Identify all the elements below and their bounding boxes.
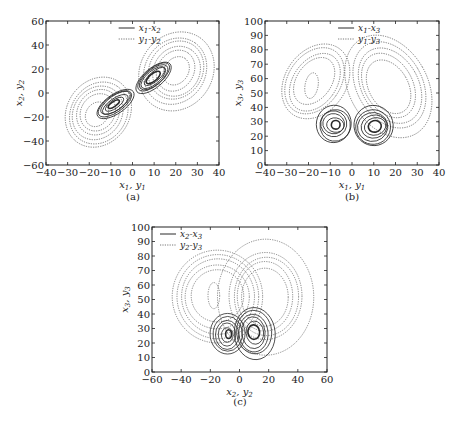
x-tick-label: 20 <box>389 167 402 178</box>
series-solid-orbit <box>131 57 176 100</box>
y-tick-label: 60 <box>137 280 150 291</box>
plot-frame <box>265 21 439 165</box>
y-tick-label: 0 <box>144 367 150 378</box>
y-tick-label: 60 <box>250 73 263 84</box>
chart-panel-a: −40−30−20−10010203040−60−40−200204060x1,… <box>0 0 230 205</box>
x-tick-label: −20 <box>200 374 221 385</box>
y-tick-label: 40 <box>31 40 44 51</box>
y-tick-label: 80 <box>137 251 150 262</box>
x-tick-label: 30 <box>191 167 204 178</box>
series-dotted-orbit <box>268 31 364 132</box>
x-tick-label: 0 <box>349 167 355 178</box>
x-tick-label: 30 <box>411 167 424 178</box>
y-tick-label: 40 <box>137 309 150 320</box>
plot-area-b: −40−30−20−100102030400102030405060708090… <box>232 16 450 193</box>
x-tick-label: 10 <box>148 167 161 178</box>
y-axis-label: x3, y3 <box>232 79 245 106</box>
y-axis-label: x3, y3 <box>119 286 132 313</box>
series-dotted-orbit <box>279 44 351 121</box>
y-tick-label: 80 <box>250 44 263 55</box>
x-tick-label: 60 <box>321 374 334 385</box>
plot-area-a: −40−30−20−10010203040−60−40−200204060x1,… <box>13 16 230 193</box>
y-tick-label: 50 <box>250 88 263 99</box>
x-tick-label: −40 <box>171 374 192 385</box>
series-dotted-orbit <box>285 50 343 112</box>
y-tick-label: 10 <box>137 352 150 363</box>
x-tick-label: −20 <box>298 167 319 178</box>
data-curves <box>172 239 314 361</box>
x-tick-label: 40 <box>291 374 304 385</box>
y-tick-label: 0 <box>257 160 263 171</box>
series-solid-orbit <box>325 116 345 133</box>
y-tick-label: 60 <box>31 16 44 27</box>
legend: x2-x3y2-y3 <box>160 229 203 252</box>
x-tick-label: 40 <box>213 167 226 178</box>
x-tick-label: −10 <box>320 167 341 178</box>
chart-panel-c: −60−40−2002040600102030405060708090100x2… <box>110 205 350 423</box>
y-tick-label: 40 <box>250 102 263 113</box>
series-dotted-orbit <box>217 239 313 355</box>
y-tick-label: 100 <box>131 222 150 233</box>
y-tick-label: 30 <box>250 116 263 127</box>
legend-entry: y1-y3 <box>357 34 381 46</box>
series-solid-orbit <box>359 112 390 141</box>
legend: x1-x2y1-y2 <box>119 23 162 46</box>
series-dotted-orbit <box>303 72 320 100</box>
y-tick-label: 90 <box>137 236 150 247</box>
y-tick-label: −20 <box>23 112 44 123</box>
y-tick-label: 20 <box>31 64 44 75</box>
y-tick-label: 100 <box>244 16 263 27</box>
x-tick-label: 0 <box>236 374 242 385</box>
series-dotted-orbit <box>327 19 450 153</box>
series-solid-orbit <box>313 102 354 145</box>
x-tick-label: 20 <box>262 374 275 385</box>
y-tick-label: −40 <box>23 136 44 147</box>
series-dotted-orbit <box>345 37 434 135</box>
series-dotted-orbit <box>58 71 140 156</box>
x-tick-label: −30 <box>57 167 78 178</box>
legend: x1-x3y1-y3 <box>338 23 381 46</box>
legend-entry: y1-y2 <box>138 34 162 46</box>
y-tick-label: 90 <box>250 30 263 41</box>
x-tick-label: −20 <box>79 167 100 178</box>
y-tick-label: 20 <box>250 131 263 142</box>
x-tick-label: 10 <box>367 167 380 178</box>
x-tick-label: −10 <box>100 167 121 178</box>
y-tick-label: 20 <box>137 338 150 349</box>
panel-label-b: (b) <box>345 191 359 202</box>
chart-panel-b: −40−30−20−100102030400102030405060708090… <box>225 0 455 205</box>
y-tick-label: 10 <box>250 145 263 156</box>
panel-label-a: (a) <box>126 191 140 202</box>
series-dotted-orbit <box>148 43 202 99</box>
y-tick-label: −60 <box>23 160 44 171</box>
plot-area-c: −60−40−2002040600102030405060708090100x2… <box>119 222 333 400</box>
x-tick-label: 0 <box>129 167 135 178</box>
y-axis-label: x2, y2 <box>13 79 26 106</box>
y-tick-label: 30 <box>137 323 150 334</box>
plot-frame <box>46 21 219 165</box>
x-tick-label: 40 <box>433 167 446 178</box>
panel-label-c: (c) <box>233 396 247 407</box>
legend-entry: y2-y3 <box>179 240 203 252</box>
x-tick-label: 20 <box>169 167 182 178</box>
y-tick-label: 70 <box>137 265 150 276</box>
y-tick-label: 50 <box>137 294 150 305</box>
y-tick-label: 0 <box>38 88 44 99</box>
series-solid-orbit <box>331 120 341 130</box>
series-dotted-orbit <box>62 76 134 150</box>
x-tick-label: −30 <box>276 167 297 178</box>
y-tick-label: 70 <box>250 59 263 70</box>
